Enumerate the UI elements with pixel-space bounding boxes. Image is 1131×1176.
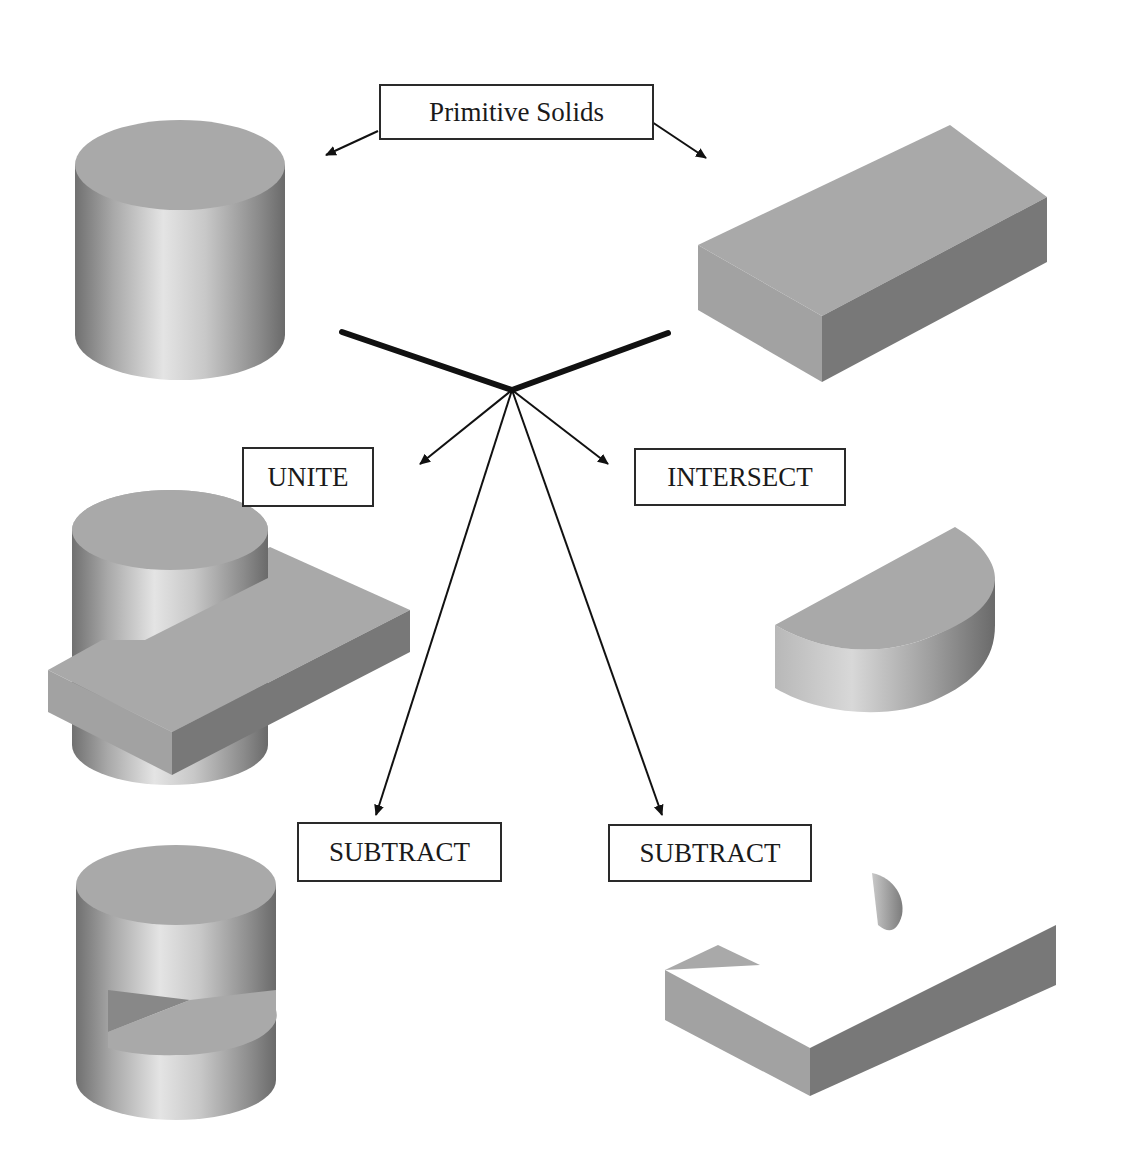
primitive-cylinder [75, 120, 285, 380]
intersect-label: INTERSECT [634, 448, 846, 506]
primitive-box [698, 125, 1047, 382]
subtract-left-label: SUBTRACT [297, 822, 502, 882]
csg-diagram [0, 0, 1131, 1176]
subtract-right-label: SUBTRACT [608, 824, 812, 882]
subtract-right-result-solid [665, 873, 1056, 1096]
unite-label: UNITE [242, 447, 374, 507]
primitive-solids-label: Primitive Solids [379, 84, 654, 140]
intersect-result-solid [775, 527, 995, 712]
subtract-left-result-solid [76, 845, 277, 1120]
